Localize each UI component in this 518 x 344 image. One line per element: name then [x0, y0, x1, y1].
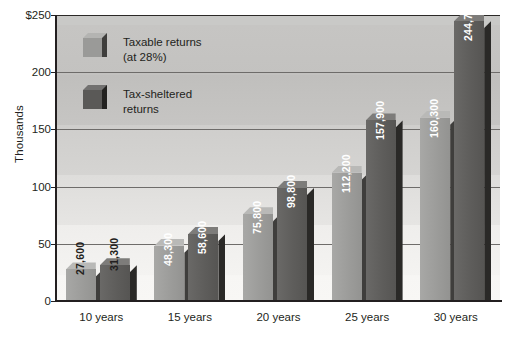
bar-value-label: 75,800: [251, 201, 263, 234]
bar-side-face: [484, 21, 491, 301]
y-tick-label-200: 200: [32, 66, 51, 78]
bar-front-face: [420, 118, 450, 301]
x-axis-line: [55, 300, 502, 302]
x-tick-label-3: 20 years: [256, 311, 300, 323]
legend-label: Tax-shelteredreturns: [123, 87, 192, 116]
y-tick-mark-150: [51, 129, 57, 130]
y-tick-mark-200: [51, 72, 57, 73]
y-tick-mark-100: [51, 187, 57, 188]
bar-value-label: 244,700: [462, 15, 474, 41]
bar-value-label: 31,300: [108, 238, 120, 271]
bar-side-face: [307, 188, 314, 301]
bar-value-label: 48,300: [162, 232, 174, 265]
legend-label-line2: returns: [123, 102, 192, 117]
bar-side-face: [396, 120, 403, 301]
y-tick-mark-50: [51, 244, 57, 245]
legend-swatch-light: [83, 33, 107, 57]
legend-label: Taxable returns(at 28%): [123, 35, 202, 64]
bar-front-face: [366, 120, 396, 301]
y-tick-label-250: $250: [25, 9, 51, 21]
y-axis-line: [55, 15, 57, 302]
gridline-200: [57, 72, 500, 73]
legend-swatch-dark: [83, 85, 107, 109]
bar-value-label: 160,300: [428, 98, 440, 137]
bar-value-label: 27,600: [74, 242, 86, 275]
legend-label-line1: Taxable returns: [123, 35, 202, 50]
swatch-sface: [83, 38, 102, 57]
bar-value-label: 157,900: [374, 101, 386, 140]
bar-side-face: [130, 265, 137, 301]
x-tick-label-2: 15 years: [168, 311, 212, 323]
y-tick-label-50: 50: [38, 238, 51, 250]
x-tick-label-1: 10 years: [79, 311, 123, 323]
bar[interactable]: [454, 21, 484, 301]
bar[interactable]: [420, 118, 450, 301]
legend-label-line2: (at 28%): [123, 50, 202, 65]
gridline-250: [57, 15, 500, 16]
y-tick-mark-250: [51, 15, 57, 16]
bar-front-face: [454, 21, 484, 301]
y-tick-label-100: 100: [32, 181, 51, 193]
chart-figure: Thousands 050100150200$250 27,60031,3004…: [0, 0, 518, 344]
bar[interactable]: [366, 120, 396, 301]
x-tick-label-4: 25 years: [345, 311, 389, 323]
bar-value-label: 98,800: [285, 175, 297, 208]
x-tick-label-5: 30 years: [434, 311, 478, 323]
y-tick-mark-0: [51, 301, 57, 302]
y-axis-tick-labels: 050100150200$250: [0, 0, 56, 344]
bar-value-label: 112,200: [340, 154, 352, 193]
bar-value-label: 58,600: [196, 221, 208, 254]
y-tick-label-150: 150: [32, 123, 51, 135]
legend-label-line1: Tax-sheltered: [123, 87, 192, 102]
swatch-sface: [83, 90, 102, 109]
bar-side-face: [218, 234, 225, 301]
